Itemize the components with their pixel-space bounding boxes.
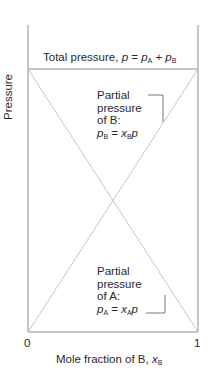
partial-b-line3: of B: — [97, 114, 142, 127]
x-tick-1: 1 — [194, 337, 200, 350]
x-axis-label-text: Mole fraction of B, — [56, 353, 152, 365]
pb-eq-p: p — [132, 127, 138, 139]
pb-subscript: B — [172, 57, 177, 64]
callout-b-leader — [148, 95, 163, 122]
partial-b-line2: pressure — [97, 102, 142, 115]
x-axis-sub: B — [158, 359, 163, 366]
partial-a-line2: pressure — [97, 278, 142, 291]
plus-sign: + — [152, 51, 165, 63]
partial-b-line1: Partial — [97, 89, 142, 102]
total-pressure-label: Total pressure, p = pA + pB — [43, 51, 176, 68]
partial-b-equation: pB = xBp — [97, 127, 142, 144]
callout-a-leader — [146, 295, 165, 313]
equals-sign: = — [128, 51, 141, 63]
x-tick-0: 0 — [24, 337, 30, 350]
pb-eq-equals: = — [108, 127, 121, 139]
partial-pressure-b-label: Partial pressure of B: pB = xBp — [97, 89, 142, 143]
y-axis-label: Pressure — [2, 74, 14, 120]
partial-a-line1: Partial — [97, 265, 142, 278]
x-axis-label: Mole fraction of B, xB — [56, 353, 162, 370]
pa-eq-equals: = — [108, 303, 121, 315]
partial-a-equation: pA = xAp — [97, 303, 142, 320]
total-pressure-prefix: Total pressure, — [43, 51, 122, 63]
pa-eq-p: p — [132, 303, 138, 315]
partial-a-line3: of A: — [97, 290, 142, 303]
partial-pressure-a-label: Partial pressure of A: pA = xAp — [97, 265, 142, 319]
